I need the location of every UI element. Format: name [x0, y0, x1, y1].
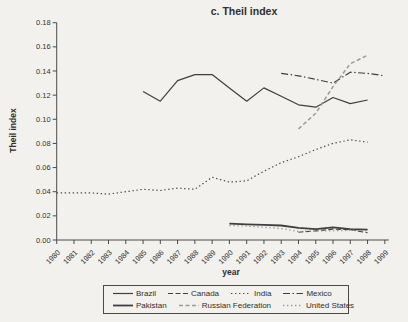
legend-item-mexico: Mexico	[282, 289, 331, 298]
x-tick-label: 1989	[199, 248, 217, 266]
x-tick-label: 1998	[355, 248, 373, 266]
x-tick-label: 1995	[303, 248, 321, 266]
y-tick-label: 0.14	[36, 67, 51, 76]
x-tick-label: 1985	[130, 248, 148, 266]
legend-row-2: PakistanRussian FederationUnited States	[112, 299, 344, 311]
legend-line-sample-india	[230, 289, 252, 298]
x-tick-label: 1987	[165, 248, 183, 266]
x-tick-label: 1992	[251, 248, 269, 266]
figure-page: c. Theil index 0.000.020.040.060.080.100…	[0, 0, 408, 322]
legend-label-canada: Canada	[191, 289, 219, 298]
series-line-brazil	[143, 75, 368, 108]
legend: BrazilCanadaIndiaMexicoPakistanRussian F…	[103, 285, 349, 314]
legend-line-sample-mexico	[282, 289, 304, 298]
legend-line-sample-canada	[167, 289, 189, 298]
legend-label-united-states: United States	[306, 301, 354, 310]
x-tick-label: 1988	[182, 248, 200, 266]
x-tick-label: 1984	[113, 248, 131, 266]
x-tick-label: 1991	[234, 248, 252, 266]
y-tick-label: 0.12	[36, 91, 51, 100]
y-tick-label: 0.16	[36, 42, 51, 51]
y-axis-title: Theil index	[8, 81, 21, 181]
plot-svg: 0.000.020.040.060.080.100.120.140.160.18…	[0, 0, 408, 284]
x-tick-label: 1980	[44, 248, 62, 266]
legend-item-pakistan: Pakistan	[112, 301, 167, 310]
x-tick-label: 1993	[268, 248, 286, 266]
y-tick-label: 0.06	[36, 163, 51, 172]
x-tick-label: 1997	[338, 248, 356, 266]
legend-item-canada: Canada	[167, 289, 219, 298]
series-line-russian-federation	[299, 55, 368, 129]
x-tick-label: 1996	[320, 248, 338, 266]
x-tick-label: 1999	[372, 248, 390, 266]
x-tick-label: 1983	[96, 248, 114, 266]
y-tick-label: 0.04	[36, 187, 51, 196]
y-tick-label: 0.10	[36, 115, 51, 124]
x-tick-label: 1981	[61, 248, 79, 266]
x-tick-label: 1994	[286, 248, 304, 266]
legend-line-sample-russian-federation	[178, 301, 200, 310]
legend-line-sample-brazil	[112, 289, 134, 298]
legend-item-india: India	[230, 289, 271, 298]
legend-label-russian-federation: Russian Federation	[202, 301, 271, 310]
legend-line-sample-united-states	[282, 301, 304, 310]
legend-line-sample-pakistan	[112, 301, 134, 310]
y-tick-label: 0.08	[36, 139, 51, 148]
y-tick-label: 0.02	[36, 211, 51, 220]
legend-item-united-states: United States	[282, 301, 354, 310]
legend-row-1: BrazilCanadaIndiaMexico	[112, 287, 344, 299]
x-tick-label: 1990	[217, 248, 235, 266]
legend-item-brazil: Brazil	[112, 289, 156, 298]
x-tick-label: 1982	[78, 248, 96, 266]
legend-label-pakistan: Pakistan	[136, 301, 167, 310]
legend-label-india: India	[254, 289, 271, 298]
x-tick-label: 1986	[148, 248, 166, 266]
y-tick-label: 0.00	[36, 236, 51, 245]
x-axis-title: year	[222, 267, 240, 277]
legend-label-brazil: Brazil	[136, 289, 156, 298]
legend-item-russian-federation: Russian Federation	[178, 301, 271, 310]
series-line-mexico	[281, 72, 385, 83]
legend-label-mexico: Mexico	[306, 289, 331, 298]
y-tick-label: 0.18	[36, 18, 51, 27]
series-line-india	[57, 140, 368, 194]
